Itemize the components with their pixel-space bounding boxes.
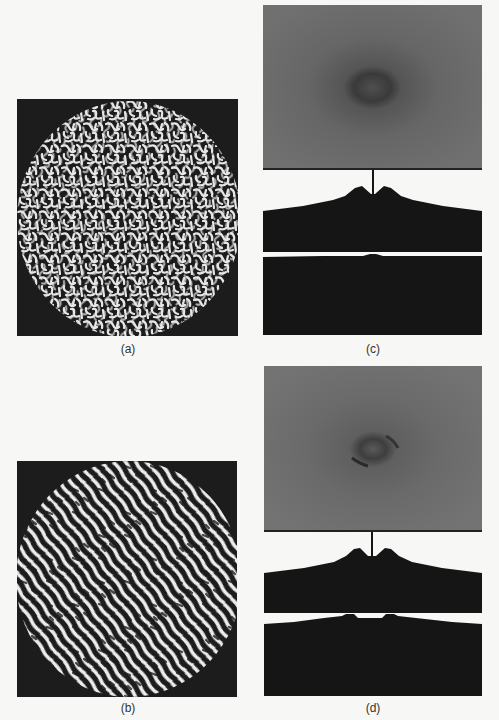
panel-d-profile-vertical <box>264 614 482 696</box>
panel-b-stripe-pattern <box>17 461 237 697</box>
panel-d-label: (d) <box>343 701 403 715</box>
panel-c-profile-vertical <box>263 254 482 335</box>
panel-a-label: (a) <box>98 342 158 356</box>
panel-c-profile-horizontal <box>263 170 482 252</box>
panel-d-profile-horizontal <box>264 532 482 613</box>
panel-b-label: (b) <box>98 701 158 715</box>
panel-c-fourier-spectrum <box>263 5 482 170</box>
panel-a-labyrinth-pattern <box>17 99 238 336</box>
panel-d-fourier-spectrum <box>264 366 482 532</box>
panel-c-label: (c) <box>343 342 403 356</box>
